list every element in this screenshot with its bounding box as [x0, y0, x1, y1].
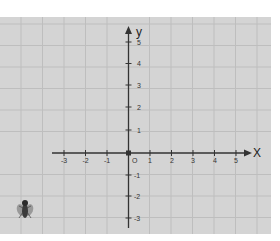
svg-text:-2: -2	[83, 157, 89, 164]
origin-label: O	[132, 157, 138, 164]
svg-text:-2: -2	[134, 193, 140, 200]
x-axis	[52, 150, 252, 157]
svg-text:1: 1	[148, 157, 152, 164]
svg-text:5: 5	[137, 39, 141, 46]
y-axis	[125, 26, 132, 228]
svg-text:-1: -1	[134, 172, 140, 179]
y-axis-arrow-icon	[125, 26, 132, 34]
svg-text:2: 2	[137, 104, 141, 111]
y-tick-labels: 5 4 3 2 1 -1 -2 -3	[134, 39, 141, 222]
svg-text:4: 4	[137, 60, 141, 67]
svg-text:2: 2	[170, 157, 174, 164]
fly-icon	[15, 200, 35, 218]
x-axis-arrow-icon	[244, 150, 252, 157]
svg-text:3: 3	[137, 82, 141, 89]
grid-lines	[0, 17, 271, 234]
svg-text:-3: -3	[61, 157, 67, 164]
svg-text:5: 5	[234, 157, 238, 164]
x-tick-labels: -3 -2 -1 1 2 3 4 5	[61, 157, 238, 164]
svg-text:3: 3	[191, 157, 195, 164]
svg-text:-3: -3	[134, 215, 140, 222]
origin-marker	[126, 151, 131, 156]
svg-text:-1: -1	[104, 157, 110, 164]
svg-text:4: 4	[213, 157, 217, 164]
coordinate-plane: X y O -3 -2 -1 1 2 3 4 5 5 4 3 2 1 -1 -2…	[0, 0, 280, 241]
x-axis-label: X	[253, 146, 261, 160]
svg-text:1: 1	[137, 127, 141, 134]
y-axis-label: y	[136, 25, 142, 39]
